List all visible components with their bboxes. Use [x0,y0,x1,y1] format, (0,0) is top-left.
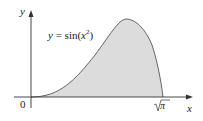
y-axis-arrow-icon [29,10,34,17]
y-axis-label: y [20,6,25,17]
exponent: 2 [86,28,90,36]
plot-canvas [0,0,203,121]
function-label: y = sin(x2) [48,29,93,41]
sqrt-pi-label: π [160,101,165,111]
origin-label: 0 [20,99,26,110]
x-axis-label: x [187,103,192,114]
x-axis-arrow-icon [186,95,193,100]
